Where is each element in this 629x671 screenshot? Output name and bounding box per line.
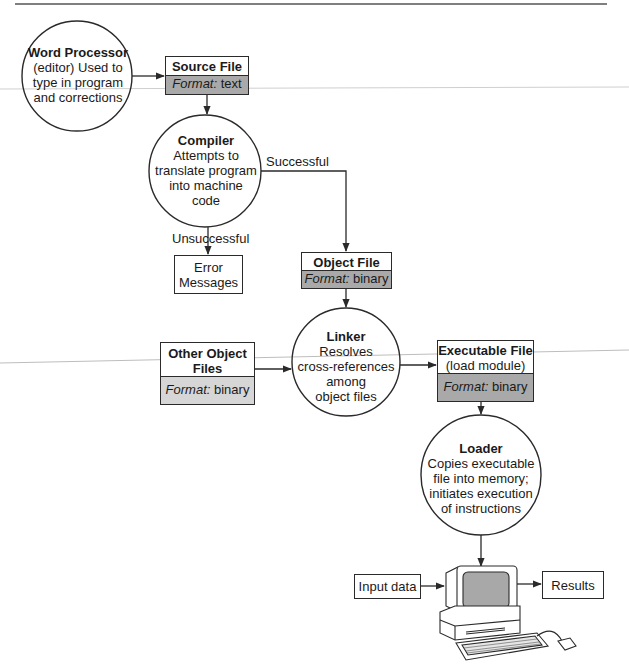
word-processor-line: and corrections (24, 90, 132, 105)
format-label: Format: (172, 76, 217, 91)
compiler-node: Compiler Attempts to translate program i… (150, 133, 262, 208)
linker-node: Linker Resolves cross-references among o… (294, 329, 398, 404)
loader-title: Loader (421, 441, 541, 456)
executable-file-box: Executable File (load module) Format: bi… (437, 340, 534, 402)
word-processor-title: Word Processor (24, 45, 132, 60)
format-value: binary (492, 379, 527, 394)
loader-line: Copies executable (421, 456, 541, 471)
error-messages-line: Error (179, 260, 238, 275)
error-messages-line: Messages (179, 275, 238, 290)
loader-line: file into memory; (421, 471, 541, 486)
word-processor-node: Word Processor (editor) Used to type in … (24, 45, 132, 105)
linker-line: cross-references (294, 359, 398, 374)
other-object-files-title: Other Object Files (161, 343, 254, 376)
title-line: Files (161, 361, 254, 376)
object-file-format: Format: binary (302, 270, 391, 288)
input-data-box: Input data (354, 574, 421, 599)
format-value: text (221, 76, 242, 91)
loader-line: of instructions (421, 501, 541, 516)
object-file-title: Object File (302, 253, 391, 270)
results-label: Results (551, 578, 594, 593)
title-line: Other Object (161, 346, 254, 361)
loader-line: initiates execution (421, 486, 541, 501)
linker-line: among (294, 374, 398, 389)
source-file-format: Format: text (166, 75, 248, 94)
compiler-title: Compiler (150, 133, 262, 148)
successful-label: Successful (266, 154, 329, 169)
compiler-line: translate program (150, 163, 262, 178)
source-file-title: Source File (166, 57, 248, 74)
other-object-files-format: Format: binary (161, 376, 254, 404)
linker-line: object files (294, 389, 398, 404)
arrow-compiler-success (261, 171, 346, 251)
word-processor-line: type in program (24, 75, 132, 90)
other-object-files-box: Other Object Files Format: binary (160, 342, 255, 405)
object-file-box: Object File Format: binary (301, 252, 392, 289)
compiler-line: code (150, 193, 262, 208)
format-label: Format: (305, 271, 350, 286)
compiler-line: into machine (150, 178, 262, 193)
format-value: binary (353, 271, 388, 286)
compiler-line: Attempts to (150, 148, 262, 163)
loader-node: Loader Copies executable file into memor… (421, 441, 541, 516)
format-label: Format: (444, 379, 489, 394)
error-messages-box: Error Messages (174, 255, 243, 294)
input-data-label: Input data (359, 579, 417, 594)
executable-file-subtitle: (load module) (438, 358, 533, 373)
word-processor-line: (editor) Used to (24, 60, 132, 75)
format-value: binary (214, 382, 249, 397)
linker-title: Linker (294, 329, 398, 344)
linker-line: Resolves (294, 344, 398, 359)
executable-file-title: Executable File (438, 341, 533, 358)
unsuccessful-label: Unsuccessful (172, 231, 249, 246)
source-file-box: Source File Format: text (165, 56, 249, 95)
executable-file-format: Format: binary (438, 373, 533, 401)
results-box: Results (542, 571, 604, 599)
format-label: Format: (166, 382, 211, 397)
